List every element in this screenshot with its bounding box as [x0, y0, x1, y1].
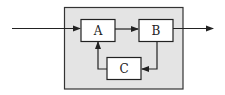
block-b: B [139, 20, 173, 42]
block-c-label: C [119, 62, 128, 76]
block-c: C [107, 58, 141, 80]
block-a: A [81, 20, 115, 42]
block-a-label: A [93, 24, 103, 38]
block-diagram: A B C [0, 0, 225, 95]
block-b-label: B [152, 24, 161, 38]
